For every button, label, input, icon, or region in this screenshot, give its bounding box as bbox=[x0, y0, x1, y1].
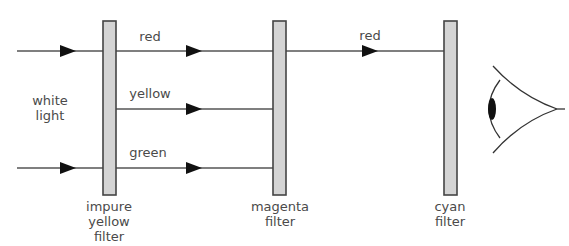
ray-red-stage1: red bbox=[116, 29, 273, 57]
filter-label-line: magenta bbox=[251, 199, 309, 214]
filter-label-line: yellow bbox=[88, 214, 130, 229]
magenta-filter: magenta filter bbox=[251, 21, 309, 229]
ray-label-red: red bbox=[139, 29, 160, 44]
arrow-icon bbox=[60, 162, 76, 174]
filter-label-line: impure bbox=[86, 199, 132, 214]
cyan-filter: cyan filter bbox=[434, 21, 465, 229]
ray-green-stage1: green bbox=[116, 145, 273, 174]
filter-label-line: filter bbox=[94, 229, 125, 244]
pupil-icon bbox=[488, 98, 496, 120]
light-filter-diagram: white light red yellow green red impure bbox=[0, 0, 569, 246]
incoming-ray-top bbox=[17, 45, 103, 57]
arrow-icon bbox=[362, 45, 378, 57]
eye-icon bbox=[488, 66, 565, 153]
filter-label-line: filter bbox=[435, 214, 466, 229]
impure-yellow-filter: impure yellow filter bbox=[86, 21, 132, 244]
arrow-icon bbox=[60, 45, 76, 57]
arrow-icon bbox=[186, 45, 202, 57]
ray-label-green: green bbox=[129, 145, 167, 160]
arrow-icon bbox=[186, 103, 202, 115]
ray-yellow-stage1: yellow bbox=[116, 86, 273, 115]
filter-label-line: cyan bbox=[434, 199, 465, 214]
white-light-label-line2: light bbox=[36, 108, 65, 123]
ray-label-red-2: red bbox=[359, 28, 380, 43]
incoming-ray-bottom bbox=[17, 162, 103, 174]
ray-label-yellow: yellow bbox=[129, 86, 171, 101]
white-light-label-line1: white bbox=[32, 93, 68, 108]
filter-label-line: filter bbox=[265, 214, 296, 229]
ray-red-stage2: red bbox=[286, 28, 444, 57]
arrow-icon bbox=[186, 162, 202, 174]
